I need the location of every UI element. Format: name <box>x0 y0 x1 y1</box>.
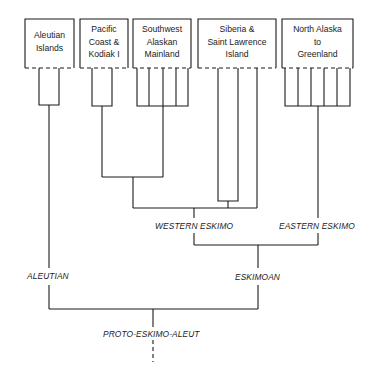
branch-label-eskimoan: ESKIMOAN <box>235 272 280 282</box>
branch-label-western-eskimo: WESTERN ESKIMO <box>155 221 233 231</box>
region-label-north-alaska-greenland: North Alaska to Greenland <box>282 23 353 61</box>
branch-label-aleutian: ALEUTIAN <box>27 271 69 281</box>
branch-label-eastern-eskimo: EASTERN ESKIMO <box>279 221 355 231</box>
region-label-siberia-saint-lawrence: Siberia & Saint Lawrence Island <box>198 23 276 61</box>
root-label-proto-eskimo-aleut: PROTO-ESKIMO-ALEUT <box>103 329 200 339</box>
region-label-pacific-coast-kodiak: Pacific Coast & Kodiak I <box>80 23 128 61</box>
region-label-southwest-alaskan-mainland: Southwest Alaskan Mainland <box>133 23 191 61</box>
region-label-aleutian-islands: Aleutian Islands <box>25 29 74 54</box>
